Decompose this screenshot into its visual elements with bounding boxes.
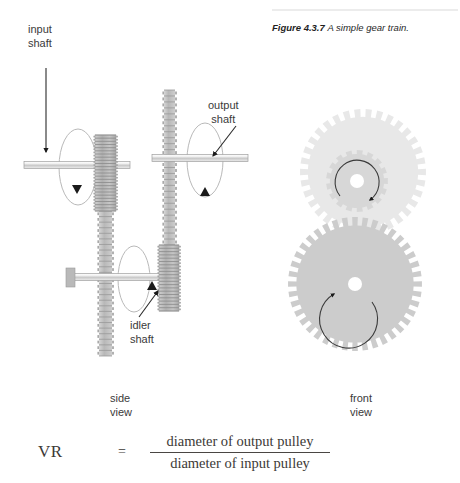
formula-denominator: diameter of input pulley <box>150 454 330 473</box>
formula-fraction: diameter of output pulley diameter of in… <box>150 432 330 473</box>
label-front-view: front view <box>350 392 372 419</box>
diagram-canvas <box>0 0 460 483</box>
figure-container: Figure 4.3.7 A simple gear train. <box>0 0 460 483</box>
formula-fraction-bar <box>150 452 330 453</box>
velocity-ratio-formula: VR = diameter of output pulley diameter … <box>0 432 460 480</box>
output-gear-column <box>162 90 176 245</box>
formula-equals-sign: = <box>118 444 126 460</box>
label-output-shaft: output shaft <box>208 99 239 126</box>
formula-symbol: VR <box>38 442 63 462</box>
idler-rotation-arrowhead <box>147 281 157 290</box>
idler-shaft-collar <box>66 268 75 287</box>
front-view-group <box>288 109 426 351</box>
input-rotation-arrowhead <box>72 185 82 194</box>
formula-numerator: diameter of output pulley <box>150 432 330 451</box>
output-shaft-bar <box>152 155 248 162</box>
label-side-view: side view <box>110 392 132 419</box>
label-input-shaft: input shaft <box>28 23 52 50</box>
input-gear-block <box>93 135 117 211</box>
input-gear-column <box>97 211 113 356</box>
output-rotation-arrowhead <box>200 187 210 196</box>
idler-gear-block <box>157 245 180 311</box>
front-gear-output-large <box>288 217 422 351</box>
label-idler-shaft: idler shaft <box>130 319 154 346</box>
